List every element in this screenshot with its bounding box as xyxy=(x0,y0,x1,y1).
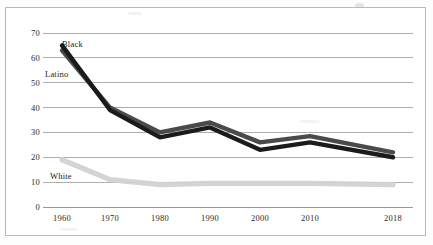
x-tick-label: 1960 xyxy=(53,214,71,223)
chart-figure: 010203040506070 196019701980199020002010… xyxy=(0,0,433,245)
x-tick-label: 2000 xyxy=(251,214,269,223)
series-label-white: White xyxy=(50,172,72,181)
scan-artifact xyxy=(300,120,320,123)
y-tick-label: 0 xyxy=(14,203,40,212)
scan-artifact xyxy=(190,182,214,185)
x-tick-label: 1990 xyxy=(201,214,219,223)
scan-artifact xyxy=(128,12,142,15)
y-tick-label: 70 xyxy=(14,29,40,38)
x-tick-label: 1980 xyxy=(151,214,169,223)
y-tick-label: 30 xyxy=(14,128,40,137)
y-tick-label: 10 xyxy=(14,178,40,187)
scan-artifact xyxy=(355,3,364,7)
y-tick-label: 50 xyxy=(14,79,40,88)
y-tick-label: 40 xyxy=(14,104,40,113)
x-tick-label: 2018 xyxy=(384,214,402,223)
series-label-latino: Latino xyxy=(45,70,68,79)
x-tick-label: 2010 xyxy=(301,214,319,223)
series-label-black: Black xyxy=(62,40,83,49)
x-axis: 1960197019801990200020102018 xyxy=(0,214,433,230)
y-tick-label: 20 xyxy=(14,153,40,162)
y-axis: 010203040506070 xyxy=(14,0,40,245)
x-tick-label: 1970 xyxy=(101,214,119,223)
y-tick-label: 60 xyxy=(14,54,40,63)
